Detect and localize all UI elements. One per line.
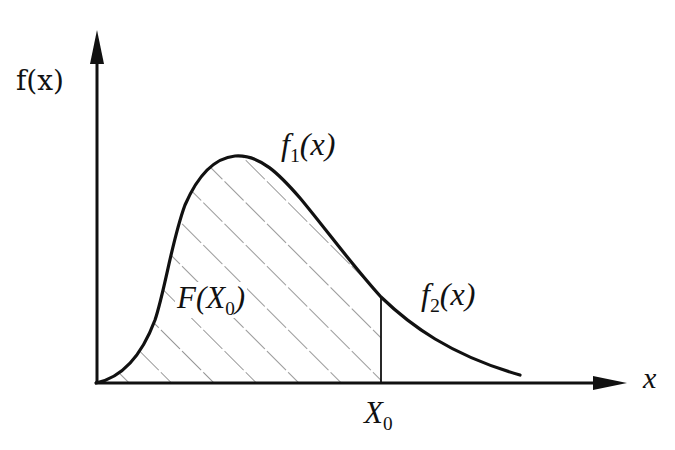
f2-name: f (421, 276, 430, 312)
x0-label: X0 (364, 397, 393, 433)
diagram-canvas: f(x) f1(x) f2(x) F(X0) X0 x (0, 0, 675, 450)
curve-label-f1: f1(x) (281, 128, 335, 166)
x-axis-arrow-icon (593, 376, 627, 390)
x-axis-label: x (643, 363, 656, 393)
shaded-region-label: F(X0) (175, 282, 247, 318)
f1-arg: (x) (300, 126, 336, 162)
F-name: F(X (177, 280, 225, 315)
f2-subscript: 2 (430, 294, 440, 316)
f1-name: f (281, 126, 290, 162)
F-subscript: 0 (225, 298, 235, 319)
x0-name: X (364, 395, 383, 430)
y-axis (90, 30, 104, 383)
y-axis-label: f(x) (16, 67, 64, 95)
diagram-svg (0, 0, 675, 450)
f1-subscript: 1 (290, 144, 300, 166)
shaded-area (90, 140, 390, 390)
y-axis-arrow-icon (90, 30, 104, 64)
x0-subscript: 0 (383, 413, 393, 434)
curve-label-f2: f2(x) (421, 278, 475, 316)
F-close: ) (235, 280, 245, 315)
f2-arg: (x) (440, 276, 476, 312)
